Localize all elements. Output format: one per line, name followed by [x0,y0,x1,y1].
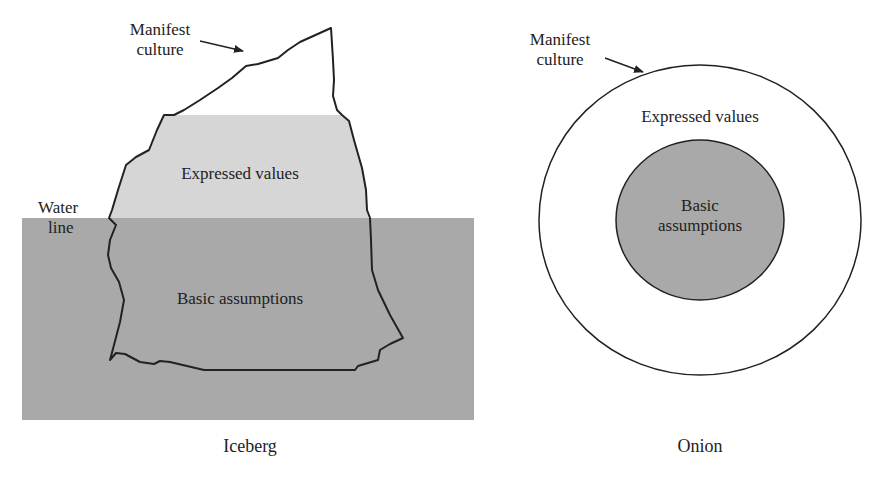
manifest-arrow [605,58,643,72]
manifest-label-line1: Manifest [120,20,200,40]
water-line-label-line1: Water [38,198,78,218]
iceberg-manifest-label: Manifest culture [120,20,200,60]
manifest-label-line2: culture [520,50,600,70]
iceberg-basic-assumptions-label: Basic assumptions [150,289,330,309]
basic-assumptions-line1: Basic [640,196,760,216]
water-line-label-line2: line [38,218,78,238]
manifest-label-line2: culture [120,40,200,60]
water-region [22,218,474,420]
iceberg-diagram [22,28,474,420]
manifest-label-line1: Manifest [520,30,600,50]
iceberg-expressed-values-label: Expressed values [160,164,320,184]
onion-basic-assumptions-label: Basic assumptions [640,196,760,236]
basic-assumptions-line2: assumptions [640,216,760,236]
iceberg-caption: Iceberg [200,436,300,456]
manifest-arrow [200,41,243,51]
onion-manifest-label: Manifest culture [520,30,600,70]
diagram-canvas [0,0,875,480]
onion-expressed-values-label: Expressed values [620,107,780,127]
onion-caption: Onion [650,436,750,456]
water-line-label: Water line [38,198,78,238]
